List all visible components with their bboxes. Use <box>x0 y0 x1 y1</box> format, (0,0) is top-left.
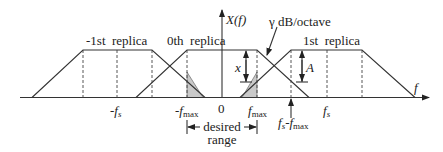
aliasing-diagram: X(f) f -1st replica 0th replica 1st repl… <box>0 0 443 152</box>
horizontal-axis-label: f <box>414 80 420 95</box>
tick-label-neg-fs: -fs <box>110 103 122 119</box>
tick-label-fs-minus-fmax: fs-fmax <box>278 115 309 131</box>
vertical-axis-label: X(f) <box>225 12 246 27</box>
replica-0-label: 0th replica <box>167 33 226 48</box>
replica-1-label: 1st replica <box>303 33 360 48</box>
tick-label-fmax: fmax <box>248 103 268 119</box>
x-dimension-label: x <box>234 60 241 75</box>
slope-label: γ dB/octave <box>268 14 331 29</box>
tick-label-fs: fs <box>323 103 331 119</box>
slope-pointer-arrow <box>267 27 277 55</box>
replica-minus-1-label: -1st replica <box>86 33 148 48</box>
tick-label-neg-fmax: -fmax <box>175 103 199 119</box>
tick-label-zero: 0 <box>218 101 225 116</box>
desired-range-label-line2: range <box>208 132 237 147</box>
replica-1-outline <box>240 50 415 98</box>
a-dimension-label: A <box>305 60 314 75</box>
